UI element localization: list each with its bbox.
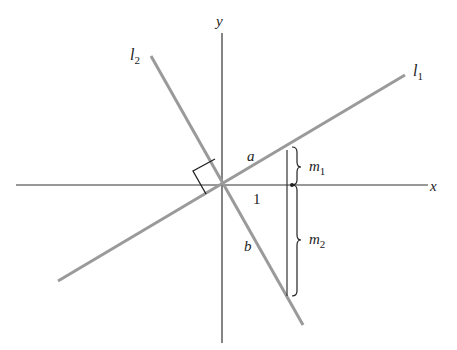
l1-label: l1 [413,62,423,82]
segment-b-label: b [244,238,252,254]
line-l2 [151,56,303,325]
unit-length-label: 1 [253,191,261,207]
m1-label: m1 [309,158,325,177]
l2-label: l2 [130,46,140,66]
perpendicular-lines-diagram: x y l2 l1 a 1 b m1 m2 [0,0,457,350]
y-axis-label: y [214,13,223,29]
brace-m1 [292,147,301,185]
brace-m2 [292,185,301,296]
x-axis-label: x [429,178,437,194]
brace-junction [290,183,294,187]
segment-a-label: a [247,148,255,164]
m2-label: m2 [309,231,325,250]
line-l1 [58,75,405,281]
